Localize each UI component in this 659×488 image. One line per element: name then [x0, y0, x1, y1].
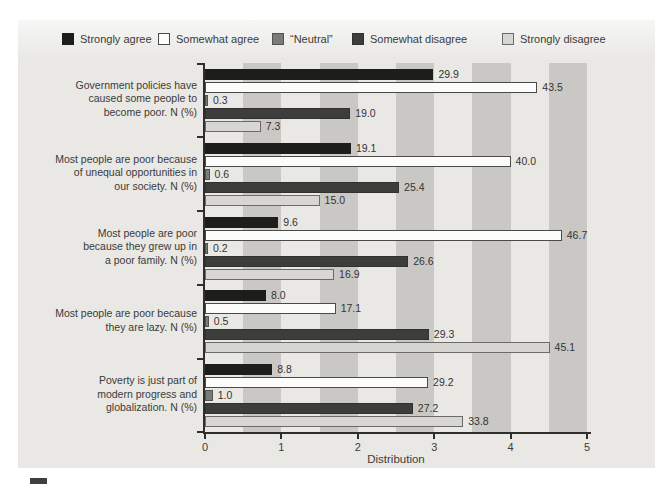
- x-tick: [586, 434, 588, 439]
- x-tick: [433, 434, 435, 439]
- value-label: 33.8: [468, 416, 488, 427]
- legend-swatch: [272, 33, 284, 45]
- x-axis-line: [203, 432, 591, 434]
- legend-item: Somewhat disagree: [352, 32, 467, 46]
- bar: [205, 82, 537, 93]
- x-tick: [357, 434, 359, 439]
- bar: [205, 243, 208, 254]
- value-label: 29.9: [438, 69, 458, 80]
- bar: [205, 256, 408, 267]
- value-label: 25.4: [404, 182, 424, 193]
- legend-swatch: [62, 33, 74, 45]
- value-label: 0.6: [215, 169, 230, 180]
- y-tick: [197, 284, 203, 286]
- value-label: 0.5: [214, 316, 229, 327]
- value-label: 19.1: [356, 143, 376, 154]
- bar: [205, 143, 351, 154]
- bar: [205, 195, 320, 206]
- value-label: 1.0: [218, 390, 233, 401]
- figure-panel: Strongly agreeSomewhat agree“Neutral”Som…: [18, 20, 655, 468]
- legend-item: Strongly disagree: [502, 32, 606, 46]
- legend-item: Strongly agree: [62, 32, 152, 46]
- value-label: 29.3: [434, 329, 454, 340]
- plot-area: Distribution 012345Government policies h…: [205, 63, 587, 432]
- category-label: Government policies have caused some peo…: [21, 79, 197, 120]
- bar: [205, 230, 562, 241]
- y-tick: [197, 210, 203, 212]
- category-label: Most people are poor because they are la…: [21, 307, 197, 334]
- bar: [205, 403, 413, 414]
- legend-label: “Neutral”: [290, 33, 333, 45]
- y-tick: [197, 431, 203, 433]
- legend-item: “Neutral”: [272, 32, 333, 46]
- y-tick: [197, 358, 203, 360]
- legend-label: Strongly agree: [80, 33, 152, 45]
- value-label: 16.9: [339, 269, 359, 280]
- x-tick-label: 3: [424, 441, 444, 453]
- category-label: Most people are poor because they grew u…: [21, 226, 197, 267]
- x-tick: [204, 434, 206, 439]
- bar: [205, 303, 336, 314]
- value-label: 40.0: [516, 156, 536, 167]
- value-label: 29.2: [433, 377, 453, 388]
- bar: [205, 95, 208, 106]
- value-label: 27.2: [418, 403, 438, 414]
- x-tick: [280, 434, 282, 439]
- value-label: 7.3: [266, 121, 281, 132]
- bar: [205, 416, 463, 427]
- bar: [205, 217, 278, 228]
- category-label: Most people are poor because of unequal …: [21, 153, 197, 194]
- x-tick-label: 1: [271, 441, 291, 453]
- bar: [205, 169, 210, 180]
- value-label: 9.6: [283, 217, 298, 228]
- legend-swatch: [158, 33, 170, 45]
- x-axis-title: Distribution: [205, 453, 587, 465]
- x-tick: [510, 434, 512, 439]
- value-label: 46.7: [567, 230, 587, 241]
- value-label: 8.8: [277, 364, 292, 375]
- caption-marker: [30, 478, 47, 484]
- x-tick-label: 2: [348, 441, 368, 453]
- bar: [205, 329, 429, 340]
- value-label: 45.1: [555, 342, 575, 353]
- legend-label: Somewhat agree: [176, 33, 259, 45]
- x-tick-label: 0: [195, 441, 215, 453]
- bar: [205, 69, 433, 80]
- category-label: Poverty is just part of modern progress …: [21, 374, 197, 415]
- y-tick: [197, 63, 203, 65]
- bar: [205, 121, 261, 132]
- legend-label: Somewhat disagree: [370, 33, 467, 45]
- x-tick-label: 4: [501, 441, 521, 453]
- legend-swatch: [502, 33, 514, 45]
- bar: [205, 108, 350, 119]
- y-tick: [197, 136, 203, 138]
- legend-item: Somewhat agree: [158, 32, 259, 46]
- figure-canvas: Strongly agreeSomewhat agree“Neutral”Som…: [0, 0, 659, 488]
- value-label: 0.2: [213, 243, 228, 254]
- x-tick-label: 5: [577, 441, 597, 453]
- bar: [205, 316, 209, 327]
- bar: [205, 390, 213, 401]
- value-label: 8.0: [271, 290, 286, 301]
- bar: [205, 182, 399, 193]
- value-label: 15.0: [325, 195, 345, 206]
- value-label: 26.6: [413, 256, 433, 267]
- value-label: 19.0: [355, 108, 375, 119]
- legend-swatch: [352, 33, 364, 45]
- value-label: 43.5: [542, 82, 562, 93]
- value-label: 0.3: [213, 95, 228, 106]
- grid-stripe: [472, 63, 510, 432]
- bar: [205, 364, 272, 375]
- bar: [205, 290, 266, 301]
- bar: [205, 342, 550, 353]
- bar: [205, 156, 511, 167]
- bar: [205, 377, 428, 388]
- legend-label: Strongly disagree: [520, 33, 606, 45]
- chart-legend: Strongly agreeSomewhat agree“Neutral”Som…: [18, 20, 655, 60]
- grid-stripe: [549, 63, 587, 432]
- bar: [205, 269, 334, 280]
- value-label: 17.1: [341, 303, 361, 314]
